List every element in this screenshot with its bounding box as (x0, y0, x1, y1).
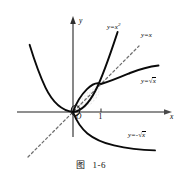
curve-label-identity: y=x (141, 32, 152, 39)
y-axis-label: y (79, 17, 82, 25)
curve-label-parabola: y=x2 (107, 22, 120, 31)
curve-label-sqrt-negative: y=-√x (128, 131, 146, 139)
origin-label: O (76, 113, 81, 121)
figure-caption: 图1-6 (0, 158, 182, 171)
sqrt-negative-radicand: x (142, 131, 146, 139)
figure-caption-number: 1-6 (93, 160, 107, 170)
sqrt-negative-radical: √x (138, 131, 145, 139)
sqrt-positive-prefix: y= (141, 77, 149, 85)
figure-container: y x O 1 y=x2 y=x y=√x y=-√x 图1-6 (0, 0, 182, 179)
sqrt-positive-radicand: x (152, 77, 156, 85)
sqrt-positive-radical: √x (149, 77, 156, 85)
function-plot (0, 0, 182, 179)
figure-caption-label: 图 (76, 160, 86, 170)
curve-label-parabola-text: y=x (107, 23, 118, 31)
x-tick-label-1: 1 (99, 113, 103, 121)
curve-label-sqrt-positive: y=√x (141, 77, 156, 85)
y-axis-arrow (70, 16, 76, 24)
x-axis-label: x (170, 113, 173, 121)
sqrt-negative-prefix: y=- (128, 131, 138, 139)
curve-label-parabola-exponent: 2 (118, 22, 121, 27)
